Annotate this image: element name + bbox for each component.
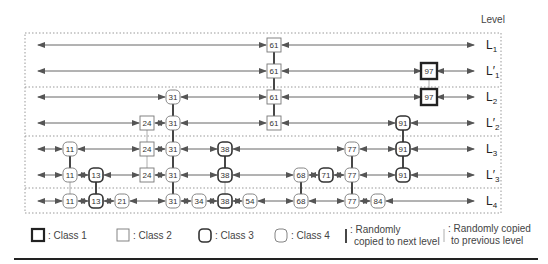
node-label: 21: [118, 197, 127, 206]
node-68-L3p: 68: [294, 168, 308, 182]
node-label: 38: [221, 171, 230, 180]
node-label: 77: [348, 197, 357, 206]
node-label: 91: [399, 119, 408, 128]
node-label: 97: [425, 93, 434, 102]
node-label: 24: [143, 145, 152, 154]
node-31-L2: 31: [166, 90, 180, 104]
class1-swatch-icon: [32, 229, 44, 241]
legend-prev-line2: to previous level: [451, 235, 523, 246]
node-91-L3p: 91: [396, 168, 410, 182]
skip-list-diagram: Level 6161973161972431619111243138779111…: [0, 0, 548, 264]
level-label-L2p: L′2: [486, 116, 500, 132]
node-61-L1: 61: [267, 38, 281, 52]
node-38-L3: 38: [218, 142, 232, 156]
node-label: 84: [374, 197, 383, 206]
node-31-L2p: 31: [166, 116, 180, 130]
node-label: 31: [169, 171, 178, 180]
level-label-L3: L3: [486, 142, 498, 158]
node-91-L2p: 91: [396, 116, 410, 130]
node-13-L3p: 13: [89, 168, 103, 182]
node-label: 11: [66, 197, 75, 206]
node-label: 31: [169, 119, 178, 128]
node-21-L4: 21: [115, 194, 129, 208]
node-61-L2p: 61: [267, 116, 281, 130]
node-11-L4: 11: [63, 194, 77, 208]
node-77-L3: 77: [345, 142, 359, 156]
node-label: 54: [246, 197, 255, 206]
node-label: 13: [92, 197, 101, 206]
node-24-L3: 24: [140, 142, 154, 156]
node-11-L3p: 11: [63, 168, 77, 182]
diagram-canvas: Level 6161973161972431619111243138779111…: [0, 0, 548, 264]
legend-next-line1: : Randomly: [350, 224, 401, 235]
legend-class1: : Class 1: [32, 229, 87, 241]
level-label-L4: L4: [486, 194, 498, 210]
node-label: 31: [169, 145, 178, 154]
node-77-L3p: 77: [345, 168, 359, 182]
node-label: 77: [348, 171, 357, 180]
node-label: 38: [221, 145, 230, 154]
node-97-L2: 97: [421, 89, 437, 105]
node-label: 91: [399, 171, 408, 180]
node-31-L3p: 31: [166, 168, 180, 182]
node-38-L3p: 38: [218, 168, 232, 182]
node-label: 34: [195, 197, 204, 206]
node-label: 71: [322, 171, 331, 180]
level-label-L2: L2: [486, 90, 498, 106]
node-68-L4: 68: [294, 194, 308, 208]
legend: : Class 1 : Class 2 : Class 3 : Class 4 …: [32, 223, 531, 247]
node-label: 68: [297, 171, 306, 180]
node-label: 31: [169, 93, 178, 102]
level-labels: L1L′1L2L′2L3L′3L4: [486, 38, 500, 210]
node-84-L4: 84: [371, 194, 385, 208]
node-label: 24: [143, 119, 152, 128]
node-34-L4: 34: [192, 194, 206, 208]
legend-class4-label: : Class 4: [291, 230, 330, 241]
legend-prev-line1: : Randomly copied: [448, 223, 531, 234]
node-label: 61: [270, 41, 279, 50]
node-label: 91: [399, 145, 408, 154]
level-label-L1p: L′1: [486, 64, 500, 80]
legend-class2-label: : Class 2: [133, 230, 172, 241]
node-61-L2: 61: [267, 90, 281, 104]
legend-class2: : Class 2: [117, 229, 172, 241]
node-label: 38: [221, 197, 230, 206]
level-label-L1: L1: [486, 38, 498, 54]
node-13-L4: 13: [89, 194, 103, 208]
node-24-L3p: 24: [140, 168, 154, 182]
node-54-L4: 54: [243, 194, 257, 208]
node-31-L3: 31: [166, 142, 180, 156]
node-61-L1p: 61: [267, 64, 281, 78]
node-71-L3p: 71: [319, 168, 333, 182]
node-label: 61: [270, 67, 279, 76]
node-91-L3: 91: [396, 142, 410, 156]
node-77-L4: 77: [345, 194, 359, 208]
legend-class3-label: : Class 3: [215, 230, 254, 241]
legend-next-line2: copied to next level: [354, 236, 440, 247]
node-label: 68: [297, 197, 306, 206]
node-24-L2p: 24: [140, 116, 154, 130]
legend-copied-prev: : Randomly copied to previous level: [444, 223, 531, 246]
class4-swatch-icon: [275, 229, 287, 242]
legend-class1-label: : Class 1: [48, 230, 87, 241]
node-label: 11: [66, 145, 75, 154]
node-label: 11: [66, 171, 75, 180]
node-label: 13: [92, 171, 101, 180]
node-label: 77: [348, 145, 357, 154]
node-label: 61: [270, 119, 279, 128]
node-label: 31: [169, 197, 178, 206]
node-label: 61: [270, 93, 279, 102]
node-97-L1p: 97: [421, 63, 437, 79]
class3-swatch-icon: [199, 229, 211, 242]
node-label: 97: [425, 67, 434, 76]
legend-class4: : Class 4: [275, 229, 330, 242]
node-11-L3: 11: [63, 142, 77, 156]
node-label: 24: [143, 171, 152, 180]
legend-copied-next: : Randomly copied to next level: [346, 224, 440, 247]
node-38-L4: 38: [218, 194, 232, 208]
level-label-L3p: L′3: [486, 168, 500, 184]
level-column-header: Level: [481, 14, 505, 25]
class2-swatch-icon: [117, 229, 129, 241]
node-31-L4: 31: [166, 194, 180, 208]
legend-class3: : Class 3: [199, 229, 254, 242]
